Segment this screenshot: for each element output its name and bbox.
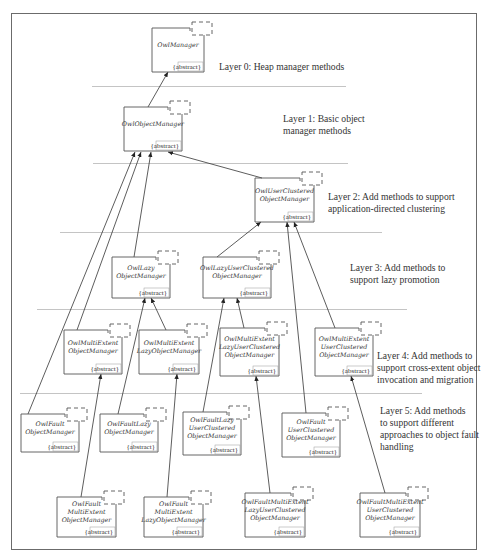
abstract-stereotype: {abstract} — [85, 528, 114, 536]
inheritance-arrow — [287, 222, 306, 413]
class-box: OwlFaultUserClusteredObjectManager{abstr… — [282, 413, 340, 457]
abstract-stereotype: {abstract} — [151, 142, 180, 150]
abstract-stereotype: {abstract} — [48, 443, 77, 451]
class-name-line: ObjectManager — [225, 351, 275, 359]
class-name-line: OwlFault — [36, 420, 65, 428]
inheritance-arrow — [237, 298, 244, 328]
class-name: OwlObjectManager — [126, 107, 180, 140]
class-name-line: OwlMultiExtent — [144, 339, 195, 347]
class-name-line: UserClustered — [288, 426, 334, 434]
class-name-line: LazyUserClustered — [219, 343, 280, 351]
class-name: OwlFaultMultiExtentObjectManager — [59, 497, 114, 526]
class-box: OwlFaultMultiExtentLazyUserClusteredObje… — [245, 493, 305, 537]
class-hierarchy-diagram: OwlManager{abstract}OwlObjectManager{abs… — [0, 0, 487, 558]
class-box: OwlFaultObjectManager{abstract} — [21, 414, 79, 452]
class-name-line: OwlMultiExtent — [224, 335, 275, 343]
class-name-line: UserClustered — [321, 343, 367, 351]
abstract-stereotype: {abstract} — [248, 367, 277, 375]
inheritance-arrow — [148, 72, 168, 107]
class-name-line: OwlFault — [72, 500, 101, 508]
class-name-line: ObjectManager — [250, 514, 300, 522]
class-name-line: OwlFaultLazy — [190, 416, 234, 424]
class-box: OwlLazyObjectManager{abstract} — [112, 257, 170, 298]
class-name-line: LazyObjectManager — [141, 516, 206, 524]
abstract-stereotype: {abstract} — [240, 289, 269, 297]
class-name: OwlLazyObjectManager — [114, 257, 168, 287]
class-name-line: OwlFault — [159, 500, 188, 508]
class-name: OwlManager — [154, 28, 202, 61]
class-box: OwlFaultLazyObjectManager{abstract} — [100, 414, 158, 452]
class-name: OwlFaultMultiExtentLazyObjectManager — [146, 497, 201, 526]
class-name-line: OwlFaultLazy — [107, 420, 151, 428]
abstract-stereotype: {abstract} — [173, 63, 202, 71]
class-name-line: ObjectManager — [286, 434, 336, 442]
class-name-line: OwlLazy — [127, 264, 154, 272]
class-name-line: MultiExtent — [154, 508, 192, 516]
class-name-line: OwlFault — [297, 418, 326, 426]
inheritance-arrow — [151, 298, 166, 330]
layer-4-label: Layer 4: Add methods to support cross-ex… — [377, 350, 480, 386]
class-name-line: OwlManager — [157, 41, 198, 49]
class-name-line: ObjectManager — [212, 272, 262, 280]
abstract-stereotype: {abstract} — [91, 365, 120, 373]
class-name-line: ObjectManager — [62, 516, 112, 524]
abstract-stereotype: {abstract} — [172, 528, 201, 536]
inheritance-arrow — [81, 374, 101, 497]
inheritance-arrow — [294, 222, 335, 328]
abstract-stereotype: {abstract} — [168, 365, 197, 373]
class-name-line: UserClustered — [189, 424, 235, 432]
class-name-line: LazyUserClustered — [244, 506, 305, 514]
abstract-stereotype: {abstract} — [309, 448, 338, 456]
class-box: OwlLazyUserClusteredObjectManager{abstra… — [203, 257, 271, 298]
class-name-line: OwlFaultMultiExtent — [242, 498, 309, 506]
abstract-stereotype: {abstract} — [342, 367, 371, 375]
class-name-line: ObjectManager — [68, 347, 118, 355]
inheritance-arrow — [256, 376, 270, 493]
class-name: OwlMultiExtentUserClusteredObjectManager — [317, 328, 371, 365]
class-box: OwlFaultMultiExtentLazyObjectManager{abs… — [144, 497, 203, 537]
class-box: OwlUserClusteredObjectManager{abstract} — [255, 178, 314, 222]
class-name: OwlFaultLazyUserClusteredObjectManager — [185, 412, 239, 444]
class-name: OwlUserClusteredObjectManager — [257, 178, 312, 211]
class-box: OwlMultiExtentLazyUserClusteredObjectMan… — [220, 328, 279, 376]
inheritance-arrow — [217, 222, 261, 257]
class-box: OwlMultiExtentUserClusteredObjectManager… — [315, 328, 373, 376]
class-box: OwlObjectManager{abstract} — [124, 107, 182, 151]
class-name: OwlLazyUserClusteredObjectManager — [205, 257, 269, 287]
layer-5-label: Layer 5: Add methods to support differen… — [380, 405, 479, 453]
class-box: OwlMultiExtentObjectManager{abstract} — [64, 330, 122, 374]
class-name: OwlMultiExtentLazyUserClusteredObjectMan… — [222, 328, 277, 365]
abstract-stereotype: {abstract} — [210, 446, 239, 454]
class-box: OwlMultiExtentLazyObjectManager{abstract… — [139, 330, 199, 374]
class-name-line: MultiExtent — [67, 508, 105, 516]
class-name: OwlMultiExtentObjectManager — [66, 330, 120, 363]
class-name-line: OwlUserClustered — [255, 187, 314, 195]
class-name-line: OwlObjectManager — [122, 120, 184, 128]
class-box: OwlFaultLazyUserClusteredObjectManager{a… — [183, 412, 241, 455]
abstract-stereotype: {abstract} — [283, 213, 312, 221]
class-name-line: ObjectManager — [260, 195, 310, 203]
class-box: OwlFaultMultiExtentObjectManager{abstrac… — [57, 497, 116, 537]
inheritance-arrow — [167, 374, 177, 497]
layer-1-label: Layer 1: Basic object manager methods — [283, 113, 365, 137]
class-name-line: UserClustered — [367, 506, 413, 514]
class-name-line: ObjectManager — [365, 514, 415, 522]
layer-3-label: Layer 3: Add methods to support lazy pro… — [350, 262, 445, 286]
class-name-line: ObjectManager — [104, 428, 154, 436]
class-name-line: ObjectManager — [187, 432, 237, 440]
class-name: OwlFaultMultiExtentUserClusteredObjectMa… — [362, 493, 418, 526]
class-name-line: OwlMultiExtent — [68, 339, 119, 347]
class-name: OwlMultiExtentLazyObjectManager — [141, 330, 197, 363]
abstract-stereotype: {abstract} — [274, 528, 303, 536]
class-name-line: OwlMultiExtent — [319, 335, 370, 343]
class-box: OwlFaultMultiExtentUserClusteredObjectMa… — [360, 493, 420, 537]
abstract-stereotype: {abstract} — [139, 289, 168, 297]
layer-2-label: Layer 2: Add methods to support applicat… — [328, 191, 455, 215]
abstract-stereotype: {abstract} — [389, 528, 418, 536]
class-name-line: LazyObjectManager — [137, 347, 202, 355]
class-name-line: ObjectManager — [116, 272, 166, 280]
class-name: OwlFaultLazyObjectManager — [102, 414, 156, 441]
class-name: OwlFaultMultiExtentLazyUserClusteredObje… — [247, 493, 303, 526]
class-name: OwlFaultUserClusteredObjectManager — [284, 413, 338, 446]
class-box: OwlManager{abstract} — [152, 28, 204, 72]
